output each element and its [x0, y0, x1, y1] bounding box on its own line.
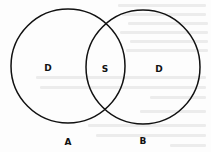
b-only-region-label: D: [155, 64, 162, 74]
intersection-region-label: S: [102, 64, 108, 74]
venn-diagram: D S D A B: [0, 0, 211, 152]
a-only-region-label: D: [44, 63, 51, 73]
set-a-label: A: [65, 137, 72, 147]
diagram-page: D S D A B: [0, 0, 211, 152]
set-b-label: B: [140, 136, 147, 146]
